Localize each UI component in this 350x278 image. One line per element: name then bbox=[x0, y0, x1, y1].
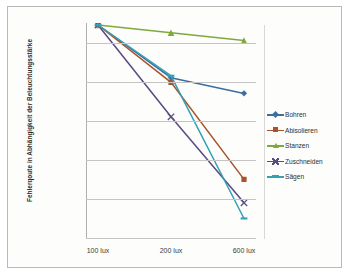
legend-swatch-icon bbox=[267, 141, 284, 150]
legend-divider bbox=[264, 25, 265, 239]
x-tick-label: 100 lux bbox=[70, 247, 126, 254]
plot-area bbox=[86, 23, 256, 238]
legend-label: Bohren bbox=[284, 111, 306, 118]
data-point-marker bbox=[241, 177, 246, 182]
chart-container: Fehlerqoute in Abhängigkeit der Beleucht… bbox=[7, 6, 342, 268]
series-line-abisolieren bbox=[98, 25, 244, 179]
gridline-65 bbox=[86, 160, 256, 161]
x-tick-label: 200 lux bbox=[143, 247, 199, 254]
data-point-marker bbox=[241, 90, 247, 96]
legend-swatch-icon bbox=[267, 172, 284, 181]
chart-legend: BohrenAbisolierenStanzenZuschneidenSägen bbox=[267, 107, 341, 185]
legend-item-zuschneiden[interactable]: Zuschneiden bbox=[267, 154, 341, 170]
gridline-45 bbox=[86, 238, 256, 239]
data-point-marker bbox=[241, 200, 247, 206]
gridline-55 bbox=[86, 199, 256, 200]
legend-item-abisolieren[interactable]: Abisolieren bbox=[267, 123, 341, 139]
gridline-85 bbox=[86, 82, 256, 83]
legend-label: Sägen bbox=[284, 173, 304, 180]
legend-label: Zuschneiden bbox=[284, 158, 323, 165]
legend-item-bohren[interactable]: Bohren bbox=[267, 107, 341, 123]
legend-label: Abisolieren bbox=[284, 127, 318, 134]
series-line-sägen bbox=[98, 25, 244, 219]
legend-item-sägen[interactable]: Sägen bbox=[267, 169, 341, 185]
gridline-75 bbox=[86, 121, 256, 122]
legend-label: Stanzen bbox=[284, 142, 309, 149]
legend-swatch-icon bbox=[267, 110, 284, 119]
x-tick-label: 600 lux bbox=[216, 247, 272, 254]
data-point-marker bbox=[168, 114, 174, 120]
legend-swatch-icon bbox=[267, 126, 284, 135]
y-axis-title: Fehlerqoute in Abhängigkeit der Beleucht… bbox=[26, 16, 33, 226]
legend-swatch-icon bbox=[267, 157, 284, 166]
series-lines bbox=[86, 23, 256, 238]
gridline-95 bbox=[86, 43, 256, 44]
legend-item-stanzen[interactable]: Stanzen bbox=[267, 138, 341, 154]
